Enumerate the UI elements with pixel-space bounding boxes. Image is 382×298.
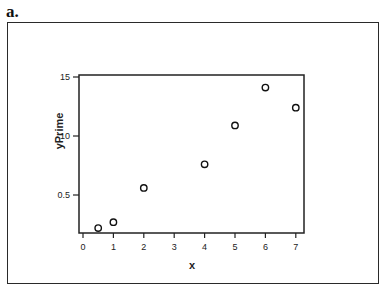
y-axis-title: yPrime (53, 113, 65, 150)
data-point-circle-icon (232, 122, 238, 128)
y-tick-label: 0.5 (57, 190, 70, 200)
data-point-circle-icon (201, 161, 207, 167)
data-point-circle-icon (262, 84, 268, 90)
x-tick-label: 5 (232, 242, 237, 252)
y-tick-label: 15 (60, 72, 70, 82)
x-tick-label: 6 (263, 242, 268, 252)
x-axis-title: x (189, 259, 196, 271)
scatter-plot: 01234567 0.51015 x yPrime (0, 0, 382, 298)
data-point-circle-icon (95, 225, 101, 231)
data-point-circle-icon (141, 185, 147, 191)
data-point-circle-icon (293, 104, 299, 110)
data-point-circle-icon (110, 219, 116, 225)
x-axis: 01234567 (80, 233, 298, 252)
x-tick-label: 3 (172, 242, 177, 252)
plot-area (79, 75, 304, 233)
x-tick-label: 7 (293, 242, 298, 252)
x-tick-label: 4 (202, 242, 207, 252)
x-tick-label: 1 (111, 242, 116, 252)
x-tick-label: 0 (80, 242, 85, 252)
data-points (95, 84, 299, 231)
x-tick-label: 2 (141, 242, 146, 252)
plot-border (79, 75, 304, 233)
